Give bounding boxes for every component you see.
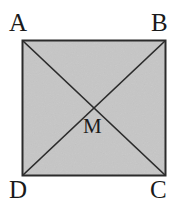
center-point-label-m: M [83, 116, 102, 137]
vertex-label-d: D [9, 177, 27, 202]
geometry-figure: A B D C M [0, 0, 181, 207]
vertex-label-b: B [151, 10, 168, 35]
vertex-label-c: C [150, 177, 167, 202]
vertex-label-a: A [9, 10, 27, 35]
